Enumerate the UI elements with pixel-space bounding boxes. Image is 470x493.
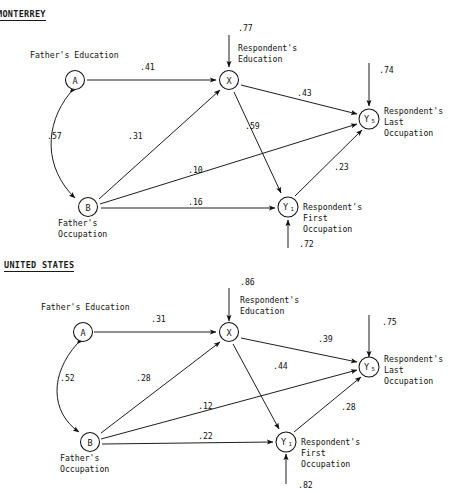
node-x-symbol: X — [226, 328, 232, 338]
edge-x-to-y1 — [233, 344, 279, 429]
edge-a-corr-b — [51, 93, 75, 198]
coef-x-to-y5: .43 — [297, 89, 312, 97]
coef-residual-x: .77 — [238, 24, 253, 32]
node-x-symbol: X — [226, 76, 232, 86]
node-y5-subscript: 5 — [372, 366, 375, 372]
coef-y1-to-y5: .23 — [334, 163, 349, 171]
coef-residual-y5: .75 — [382, 318, 397, 326]
panel-monterrey: MONTERREY — [0, 0, 470, 252]
varlabel-respondents-first-occupation-line2: First — [303, 213, 328, 224]
varlabel-respondents-first-occupation-line3: Occupation — [303, 224, 352, 235]
varlabel-respondents-first-occupation-line1: Respondent's — [301, 437, 360, 448]
edge-b-to-x — [101, 342, 220, 433]
varlabel-respondents-last-occupation-line3: Occupation — [384, 376, 433, 387]
node-y5-symbol: Y — [364, 362, 369, 372]
varlabel-respondents-first-occupation-line2: First — [301, 448, 326, 459]
coef-a-to-x: .31 — [151, 315, 166, 323]
coef-residual-y1: .72 — [299, 240, 314, 248]
node-y1: Y 1 — [278, 197, 298, 217]
node-a-symbol: A — [72, 76, 77, 86]
varlabel-fathers-occupation-line1: Father's — [60, 453, 99, 464]
coef-x-to-y1: .44 — [273, 362, 288, 370]
node-y1-subscript: 1 — [291, 206, 294, 212]
varlabel-fathers-education: Father's Education — [41, 302, 130, 313]
varlabel-respondents-first-occupation-line1: Respondent's — [303, 202, 362, 213]
coef-y1-to-y5: .28 — [341, 403, 356, 411]
coef-b-to-y5: .10 — [188, 166, 203, 174]
varlabel-respondents-education-line1: Respondent's — [238, 43, 297, 54]
coef-residual-x: .86 — [240, 278, 255, 286]
coef-residual-y1: .82 — [298, 481, 313, 489]
varlabel-respondents-last-occupation-line1: Respondent's — [384, 354, 443, 365]
varlabel-fathers-education: Father's Education — [30, 50, 119, 61]
coef-x-to-y1: .59 — [245, 122, 260, 130]
edge-b-to-y1 — [102, 442, 273, 444]
coef-a-corr-b: .52 — [60, 374, 75, 382]
node-y1-subscript: 1 — [289, 441, 292, 447]
node-a: A — [74, 323, 93, 342]
node-a: A — [66, 71, 85, 90]
node-y5-symbol: Y — [364, 114, 369, 124]
coef-b-to-x: .31 — [128, 132, 143, 140]
panel-united-states: UNITED STATES — [0, 252, 470, 493]
node-x: X — [220, 71, 239, 90]
coef-b-to-y1: .16 — [188, 198, 203, 206]
varlabel-fathers-occupation-line1: Father's — [58, 218, 97, 229]
varlabel-respondents-education-line2: Education — [240, 306, 284, 317]
varlabel-respondents-last-occupation-line1: Respondent's — [384, 106, 443, 117]
node-y5: Y 5 — [359, 357, 379, 377]
varlabel-fathers-occupation-line2: Occupation — [60, 464, 109, 475]
varlabel-respondents-education-line2: Education — [238, 54, 282, 65]
coef-x-to-y5: .39 — [318, 335, 333, 343]
varlabel-fathers-occupation-line2: Occupation — [58, 229, 107, 240]
node-b-symbol: B — [85, 203, 90, 213]
path-diagram-figure: MONTERREY — [0, 0, 470, 493]
node-x: X — [220, 323, 239, 342]
node-y5: Y 5 — [359, 109, 379, 129]
coef-b-to-y1: .22 — [198, 432, 213, 440]
node-a-symbol: A — [80, 328, 85, 338]
varlabel-respondents-first-occupation-line3: Occupation — [301, 459, 350, 470]
node-y5-subscript: 5 — [372, 118, 375, 124]
varlabel-respondents-last-occupation-line2: Last — [384, 117, 404, 128]
edge-x-to-y5 — [241, 338, 357, 362]
node-y1: Y 1 — [276, 432, 296, 452]
node-y1-symbol: Y — [281, 437, 286, 447]
node-b-symbol: B — [87, 438, 92, 448]
coef-a-to-x: .41 — [140, 63, 155, 71]
coef-b-to-y5: .12 — [198, 402, 213, 410]
edge-x-to-y1 — [234, 92, 281, 193]
varlabel-respondents-education-line1: Respondent's — [240, 295, 299, 306]
coef-a-corr-b: .57 — [47, 132, 62, 140]
node-b: B — [81, 433, 100, 452]
varlabel-respondents-last-occupation-line2: Last — [384, 365, 404, 376]
edge-b-to-x — [99, 90, 220, 199]
node-b: B — [79, 198, 98, 217]
varlabel-respondents-last-occupation-line3: Occupation — [384, 128, 433, 139]
node-y1-symbol: Y — [283, 202, 288, 212]
coef-b-to-x: .28 — [136, 374, 151, 382]
edge-a-corr-b — [57, 344, 79, 432]
coef-residual-y5: .74 — [379, 66, 394, 74]
